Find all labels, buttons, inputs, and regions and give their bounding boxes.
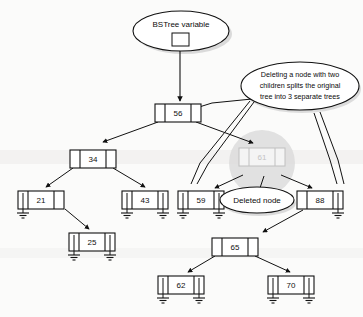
callout-deleted-node[interactable]: Deleted node [220, 187, 294, 213]
node-value-62: 62 [177, 281, 186, 290]
bstree-pointer-box [172, 33, 189, 46]
tree-node-21[interactable]: 21 [17, 191, 64, 218]
node-value-21: 21 [37, 196, 46, 205]
node-value-61: 61 [258, 153, 267, 162]
node-value-56: 56 [174, 109, 183, 118]
node-value-70: 70 [287, 281, 296, 290]
callout-split-explanation[interactable]: Deleting a node with two children splits… [241, 62, 359, 110]
tree-node-65[interactable]: 65 [212, 238, 258, 256]
tree-node-59[interactable]: 59 [177, 191, 225, 218]
tree-node-25[interactable]: 25 [68, 233, 116, 260]
tree-node-56[interactable]: 56 [155, 104, 201, 122]
node-value-25: 25 [88, 238, 97, 247]
node-value-65: 65 [231, 243, 240, 252]
node-value-59: 59 [197, 196, 206, 205]
node-value-88: 88 [316, 196, 325, 205]
node-value-34: 34 [89, 155, 98, 164]
tree-node-88[interactable]: 88 [297, 191, 344, 218]
diagram-canvas: 56 34 61 21 [0, 0, 363, 317]
tree-node-70[interactable]: 70 [267, 276, 315, 303]
tree-node-43[interactable]: 43 [121, 191, 169, 218]
edge-65-right-70 [255, 256, 290, 272]
callout-split-line-1: Deleting a node with two [261, 70, 339, 79]
edge-21-right-25 [65, 209, 89, 229]
callout-split-line-3: tree into 3 separate trees [260, 92, 340, 101]
callout-split-line-2: children splits the original [260, 81, 341, 90]
bst-deletion-diagram: 56 34 61 21 [0, 0, 363, 317]
edge-56-left-34 [103, 122, 158, 142]
leader-split-to-root [196, 99, 252, 108]
tree-node-34[interactable]: 34 [70, 150, 116, 168]
tree-node-62[interactable]: 62 [157, 276, 205, 303]
callout-bstree-variable[interactable]: BSTree variable [133, 11, 229, 51]
callout-deleted-label: Deleted node [233, 196, 281, 205]
tree-node-61-deleted[interactable]: 61 [239, 148, 285, 166]
edge-65-left-62 [188, 256, 215, 272]
edge-34-left-21 [46, 168, 73, 187]
edge-34-right-43 [113, 168, 145, 187]
node-value-43: 43 [141, 196, 150, 205]
callout-bstree-label: BSTree variable [152, 20, 210, 29]
leader-split-to-subtree-88b [320, 112, 344, 184]
